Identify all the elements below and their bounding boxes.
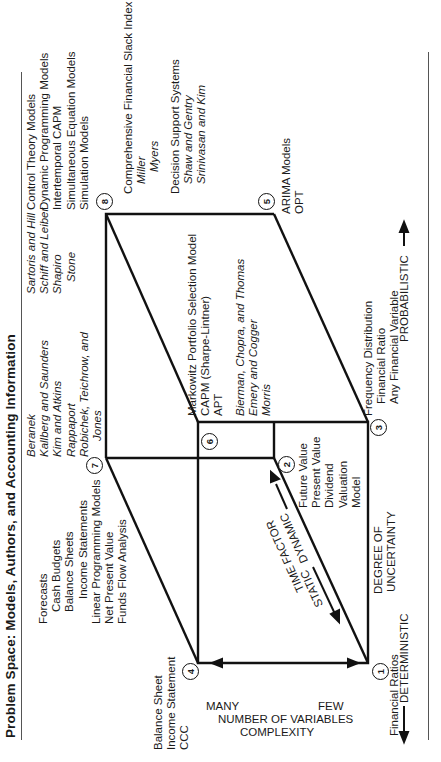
label-line: Morris [260, 259, 273, 416]
label-line: Income Statement [165, 657, 178, 750]
label-line: OPT [293, 138, 306, 214]
corner-2-marker: 2 [278, 456, 295, 473]
complexity-many-label: MANY [206, 700, 239, 713]
corner-5-marker: 5 [258, 193, 275, 210]
corner-8-slack-index: Comprehensive Financial Slack Index Mill… [122, 2, 162, 194]
label-line: Dynamic Programming Models [38, 51, 51, 210]
label-line: Valuation [337, 437, 350, 508]
label-line: Control Theory Models [25, 51, 38, 210]
label-line: Comprehensive Financial Slack Index [122, 2, 135, 194]
label-line: Decision Support Systems [169, 59, 182, 194]
label-line: Income Statements [77, 480, 90, 624]
label-line: Linear Programming Models [90, 480, 103, 624]
label-line: Dividend [323, 437, 336, 508]
label-line: Robichek, Teichrow, and [78, 332, 91, 457]
label-line: Kim and Atkins [51, 332, 64, 457]
corner-7-authors: Beranek Kallberg and Saunders Kim and At… [25, 332, 104, 457]
label-line: Present Value [310, 437, 323, 508]
corner-8-top-models: Control Theory Models Dynamic Programmin… [25, 51, 91, 210]
corner-6-authors: Bierman, Chopra, and Thomas Emery and Co… [234, 259, 274, 416]
corner-3-marker: 3 [370, 419, 387, 436]
label-line: Simulation Models [78, 51, 91, 210]
edge-5-3 [274, 214, 368, 422]
label-line: Emery and Cogger [247, 259, 260, 416]
label-line: Financial Ratio [375, 290, 388, 416]
problem-space-figure: Problem Space: Models, Authors, and Acco… [0, 0, 441, 762]
label-line: Jones [91, 332, 104, 457]
corner-1-marker: 1 [372, 663, 389, 680]
label-line: Miller [135, 2, 148, 194]
label-line: Beranek [25, 332, 38, 457]
arrow-dynamic [271, 472, 279, 482]
label-line: Future Value [297, 437, 310, 508]
label-line: CCC [178, 657, 191, 750]
label-line: Markowitz Portfolio Selection Model [186, 234, 199, 416]
complexity-few-label: FEW [318, 700, 344, 713]
corner-3-label: Frequency Distribution Financial Ratio A… [362, 290, 402, 416]
arrow-few [348, 659, 358, 667]
label-line: Model [350, 437, 363, 508]
label-line: Stone [65, 208, 78, 294]
label-line: Srinivasan and Kim [195, 59, 208, 194]
label-line: Shaw and Gentry [182, 59, 195, 194]
uncertainty-probabilistic-label: PROBABILISTIC [398, 255, 411, 342]
label-line: Balance Sheets [63, 480, 76, 624]
label-line: Rappaport [65, 332, 78, 457]
corner-8-dss: Decision Support Systems Shaw and Gentry… [169, 59, 209, 194]
label-line: Balance Sheet [152, 657, 165, 750]
corner-6-models: Markowitz Portfolio Selection Model CAPM… [186, 234, 226, 416]
corner-7-models: Forecasts Cash Budgets Balance Sheets In… [37, 480, 129, 624]
corner-4-label: Balance Sheet Income Statement CCC [152, 657, 192, 750]
complexity-title: COMPLEXITY [240, 726, 314, 739]
uncertainty-deterministic-label: DETERMINISTIC [398, 614, 411, 703]
label-line: Frequency Distribution [362, 290, 375, 416]
corner-5-label: ARIMA Models OPT [280, 138, 306, 214]
arrow-probabilistic [400, 222, 408, 232]
label-line: Bierman, Chopra, and Thomas [234, 259, 247, 416]
uncertainty-title-2: UNCERTAINTY [385, 511, 398, 592]
label-line: Shapiro [51, 208, 64, 294]
uncertainty-title-1: DEGREE OF [372, 526, 385, 594]
arrow-static [331, 610, 339, 622]
label-line: Sartoris and Hill [25, 208, 38, 294]
label-line: Cash Budgets [50, 480, 63, 624]
corner-8-top-authors: Sartoris and Hill Schiff and Leiber Shap… [25, 208, 78, 294]
label-line: CAPM (Sharpe-Lintner) [199, 234, 212, 416]
label-line: APT [212, 234, 225, 416]
back-edge-8-6 [106, 214, 198, 422]
label-line: Forecasts [37, 480, 50, 624]
label-line: Intertemporal CAPM [51, 51, 64, 210]
complexity-subtitle: NUMBER OF VARIABLES [218, 713, 353, 726]
corner-2-label: Future Value Present Value Dividend Valu… [297, 437, 363, 508]
label-line: Schiff and Leiber [38, 208, 51, 294]
label-line: Kallberg and Saunders [38, 332, 51, 457]
corner-8-marker: 8 [96, 193, 113, 210]
label-line: Simultaneous Equation Models [65, 51, 78, 210]
label-line: Myers [148, 2, 161, 194]
label-line: Funds Flow Analysis [116, 480, 129, 624]
arrow-many [212, 659, 222, 667]
corner-7-marker: 7 [86, 457, 103, 474]
label-line: Net Present Value [103, 480, 116, 624]
label-line: ARIMA Models [280, 138, 293, 214]
corner-6-marker: 6 [201, 433, 218, 450]
